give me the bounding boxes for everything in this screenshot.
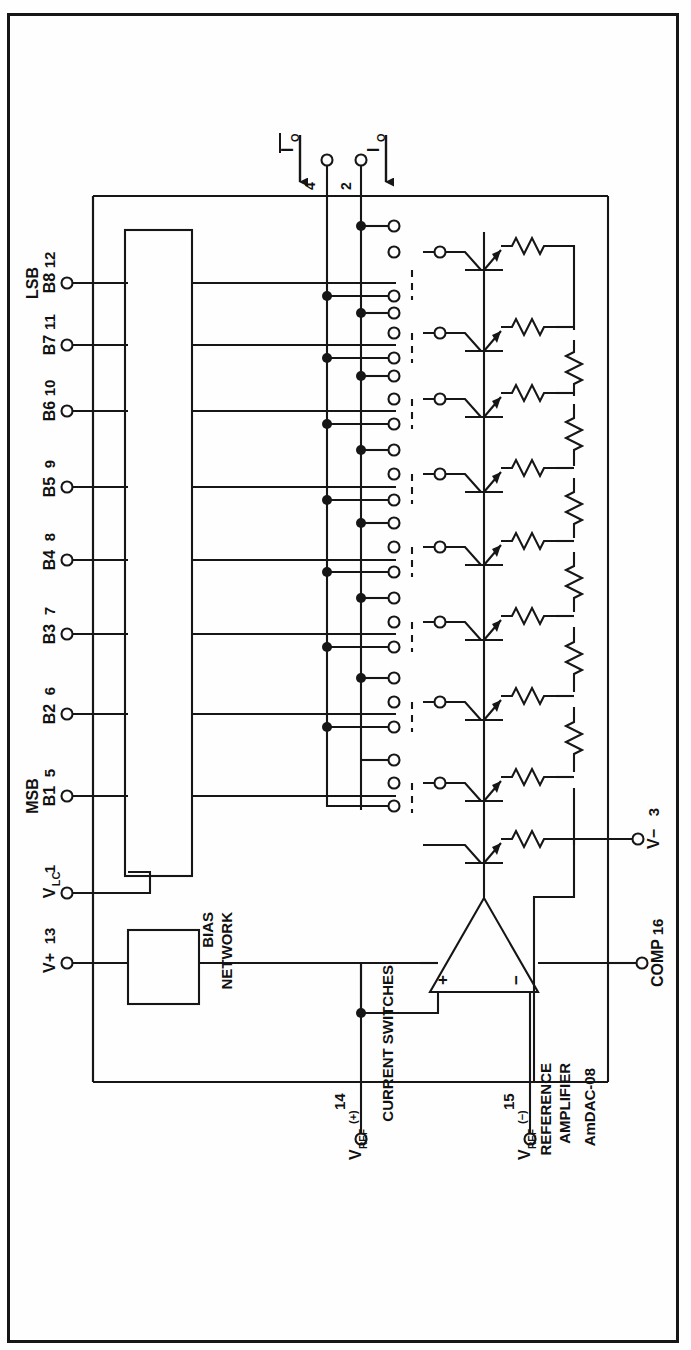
bias-network-label-line1: BIAS bbox=[199, 912, 216, 948]
schematic-figure: I O 4 I O 2 LSB B8 12 B7 11 B6 10 B5 9 B… bbox=[0, 0, 691, 1350]
label-b5: B5 bbox=[41, 477, 58, 498]
wire-layer bbox=[72, 166, 636, 1133]
junction-dot-iobar-7 bbox=[322, 722, 332, 732]
pin-comp: 16 bbox=[649, 919, 666, 936]
terminal-comp bbox=[637, 958, 648, 969]
vlc-label-group: V LC bbox=[41, 872, 62, 899]
ladder-seg-1 bbox=[556, 246, 574, 330]
reference-emitter-resistor bbox=[501, 831, 556, 847]
emitter-resistor-1 bbox=[501, 238, 556, 254]
terminal-b3 bbox=[62, 629, 73, 640]
junction-dot-iobar-4 bbox=[322, 495, 332, 505]
switch-pole-3a bbox=[389, 371, 400, 382]
emitter-resistor-8 bbox=[501, 769, 556, 785]
switch-pole-2c bbox=[389, 353, 400, 364]
terminal-io-bar bbox=[322, 155, 333, 166]
switch-pole-6c bbox=[389, 642, 400, 653]
io-bar-pin-number: 4 bbox=[302, 182, 318, 190]
amplifier-plus-sign: + bbox=[433, 975, 452, 985]
logic-block bbox=[125, 230, 192, 876]
junction-dot-io-4 bbox=[356, 518, 366, 528]
junction-dot-iobar-2 bbox=[322, 353, 332, 363]
label-b7: B7 bbox=[41, 335, 58, 356]
ladder-resistor-f bbox=[566, 707, 582, 772]
switch-pivot-2 bbox=[435, 328, 446, 339]
pin-b2: 6 bbox=[41, 687, 58, 695]
transistor-emitters bbox=[484, 250, 501, 863]
terminal-b7 bbox=[62, 340, 73, 351]
label-b6: B6 bbox=[41, 401, 58, 422]
pin-b8: 12 bbox=[41, 252, 58, 269]
vref-minus-label-group: V REF (−) bbox=[516, 1110, 538, 1160]
label-vref-plus-base: V bbox=[347, 1149, 364, 1160]
switch-pole-0 bbox=[389, 221, 400, 232]
switch-pole-4c bbox=[389, 495, 400, 506]
switch-pivot-6 bbox=[435, 617, 446, 628]
label-vref-plus-sup: (+) bbox=[347, 1110, 359, 1124]
label-comp: COMP bbox=[649, 939, 666, 987]
bias-network-label-line2: NETWORK bbox=[218, 912, 235, 990]
pin-b7: 11 bbox=[41, 314, 58, 330]
switch-pole-2a bbox=[389, 308, 400, 319]
label-b8: B8 bbox=[41, 273, 58, 294]
pin-vref-minus: 15 bbox=[500, 1093, 517, 1110]
emitter-resistor-7 bbox=[501, 688, 556, 704]
pin-vplus: 13 bbox=[41, 928, 58, 945]
pin-b1: 5 bbox=[41, 769, 58, 777]
switch-pole-1b bbox=[389, 291, 400, 302]
switch-arm-5 bbox=[423, 547, 481, 565]
pin-b3: 7 bbox=[41, 607, 58, 615]
terminal-b5 bbox=[62, 482, 73, 493]
io-pin-number: 2 bbox=[338, 182, 354, 190]
terminal-b1 bbox=[62, 791, 73, 802]
label-vref-plus-sub: REF bbox=[358, 1129, 369, 1149]
terminal-b2 bbox=[62, 709, 73, 720]
emitter-resistor-5 bbox=[501, 533, 556, 549]
amplifier-minus-sign: − bbox=[507, 975, 526, 985]
output-current-arrows bbox=[300, 135, 386, 182]
page-canvas: I O 4 I O 2 LSB B8 12 B7 11 B6 10 B5 9 B… bbox=[0, 0, 691, 1350]
terminal-b8 bbox=[62, 278, 73, 289]
io-label-group: I O bbox=[365, 133, 387, 152]
switch-pole-1a bbox=[389, 247, 400, 258]
switch-arm-3 bbox=[423, 399, 481, 417]
terminal-vplus bbox=[62, 958, 73, 969]
switch-pole-6b bbox=[389, 617, 400, 628]
switch-pole-3b bbox=[389, 394, 400, 405]
label-vplus: V+ bbox=[41, 953, 58, 973]
emitter-resistor-2 bbox=[501, 319, 556, 335]
switch-pivot-4 bbox=[435, 469, 446, 480]
label-b4: B4 bbox=[41, 550, 58, 571]
ladder-resistor-c bbox=[566, 478, 582, 538]
junction-dot-io-0 bbox=[356, 221, 366, 231]
switch-arm-1 bbox=[423, 252, 481, 270]
emitter-resistor-6 bbox=[501, 608, 556, 624]
label-vlc: V bbox=[41, 887, 58, 898]
switch-arm-ref bbox=[423, 845, 481, 863]
terminal-circles bbox=[62, 155, 648, 1145]
pin-vref-plus: 14 bbox=[331, 1093, 348, 1110]
io-bar-label: I bbox=[279, 148, 296, 152]
lsb-group-label: LSB bbox=[24, 267, 41, 299]
junction-dot-vref-plus bbox=[356, 1008, 366, 1018]
reference-amplifier-label-line2: AMPLIFIER bbox=[556, 1063, 573, 1144]
switch-pole-2b bbox=[389, 328, 400, 339]
ladder-resistor-b bbox=[566, 404, 582, 466]
switch-pole-5a bbox=[389, 518, 400, 529]
junction-dot-io-2 bbox=[356, 371, 366, 381]
label-b2: B2 bbox=[41, 704, 58, 725]
switch-pole-5c bbox=[389, 567, 400, 578]
label-vminus: V− bbox=[645, 829, 662, 849]
msb-group-label: MSB bbox=[24, 778, 41, 814]
refamp-plus-feedback bbox=[361, 963, 438, 1013]
switch-pole-4a bbox=[389, 445, 400, 456]
label-vref-minus-base: V bbox=[516, 1149, 533, 1160]
switch-arm-6 bbox=[423, 622, 481, 640]
switch-pivot-1 bbox=[435, 247, 446, 258]
label-vref-minus-sup: (−) bbox=[516, 1110, 528, 1124]
junction-dot-iobar-6 bbox=[322, 642, 332, 652]
junction-dot-io-3 bbox=[356, 445, 366, 455]
current-switches-label: CURRENT SWITCHES bbox=[379, 965, 396, 1122]
switch-arm-2 bbox=[423, 333, 481, 351]
label-b3: B3 bbox=[41, 624, 58, 645]
